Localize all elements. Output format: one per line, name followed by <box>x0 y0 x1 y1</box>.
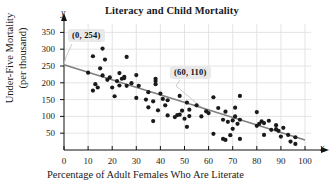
data-point <box>103 58 107 62</box>
y-axis-title-line1: Under-Five Mortality <box>3 0 16 118</box>
data-point <box>262 133 266 137</box>
data-point <box>91 54 95 58</box>
data-point <box>146 105 150 109</box>
x-tick-label: 30 <box>126 156 146 166</box>
data-point <box>182 117 186 121</box>
data-point <box>146 90 150 94</box>
x-tick-label: 90 <box>271 156 291 166</box>
data-point <box>125 55 129 59</box>
leader-line-intercept <box>64 44 72 65</box>
data-point <box>281 126 285 130</box>
data-point <box>238 94 242 98</box>
data-point <box>100 73 104 77</box>
data-point <box>156 108 160 112</box>
x-tick-label: 80 <box>247 156 267 166</box>
data-point <box>293 142 297 146</box>
data-point <box>158 91 162 95</box>
data-point <box>93 82 97 86</box>
data-point <box>238 137 242 141</box>
y-tick-label: 350 <box>33 27 55 37</box>
y-tick-label: 50 <box>33 128 55 138</box>
data-point <box>91 88 95 92</box>
data-point <box>235 122 239 126</box>
y-tick-label: 200 <box>33 78 55 88</box>
data-point <box>129 81 133 85</box>
data-point <box>137 84 141 88</box>
x-tick-label: 60 <box>199 156 219 166</box>
annotation-callout-point: (60, 110) <box>170 66 211 79</box>
data-point <box>125 84 129 88</box>
data-point <box>194 103 198 107</box>
data-point <box>238 118 242 122</box>
data-point <box>288 140 292 144</box>
data-point <box>185 101 189 105</box>
data-point <box>151 119 155 123</box>
data-point <box>161 97 165 101</box>
data-point <box>216 106 220 110</box>
data-point <box>255 110 259 114</box>
y-axis-title-line2: (per thousand) <box>16 0 29 118</box>
data-point <box>117 71 121 75</box>
data-point <box>207 111 211 115</box>
x-tick-label: 10 <box>78 156 98 166</box>
data-point <box>166 113 170 117</box>
y-axis-title: Under-Five Mortality (per thousand) <box>3 0 33 118</box>
data-point-group <box>86 46 297 146</box>
data-point <box>144 98 148 102</box>
x-axis-variable-label: x <box>320 143 324 153</box>
data-point <box>134 73 138 77</box>
data-point <box>276 129 280 133</box>
data-point <box>163 103 167 107</box>
data-point <box>223 138 227 142</box>
x-tick-label: 50 <box>175 156 195 166</box>
data-point <box>211 132 215 136</box>
annotation-callout-intercept: (0, 254) <box>68 29 105 42</box>
data-point <box>187 108 191 112</box>
data-point <box>110 85 114 89</box>
y-axis-variable-label: y <box>61 8 65 18</box>
data-point <box>187 114 191 118</box>
data-point <box>180 109 184 113</box>
data-point <box>100 46 104 50</box>
data-point <box>153 82 157 86</box>
x-tick-label: 100 <box>295 156 315 166</box>
y-tick-label: 300 <box>33 44 55 54</box>
data-point <box>231 127 235 131</box>
data-point <box>86 71 90 75</box>
data-point <box>223 110 227 114</box>
data-point <box>231 118 235 122</box>
data-point <box>269 128 273 132</box>
data-point <box>274 123 278 127</box>
data-point <box>134 96 138 100</box>
data-point <box>153 77 157 81</box>
x-axis-title: Percentage of Adult Females Who Are Lite… <box>47 170 244 181</box>
data-point <box>211 95 215 99</box>
x-tick-label: 70 <box>223 156 243 166</box>
data-point <box>178 94 182 98</box>
data-point <box>96 85 100 89</box>
data-point <box>233 106 237 110</box>
data-point <box>122 75 126 79</box>
data-point <box>267 119 271 123</box>
data-point <box>166 98 170 102</box>
data-point <box>221 118 225 122</box>
data-point <box>117 83 121 87</box>
data-point <box>108 75 112 79</box>
data-point <box>228 133 232 137</box>
data-point <box>226 120 230 124</box>
data-point <box>199 114 203 118</box>
chart-figure: Literacy and Child Mortality Percentage … <box>0 0 333 191</box>
gridlines <box>64 24 311 150</box>
data-point <box>113 94 117 98</box>
x-tick-label: 40 <box>150 156 170 166</box>
data-point <box>233 114 237 118</box>
y-tick-label: 250 <box>33 61 55 71</box>
data-point <box>185 125 189 129</box>
data-point <box>262 121 266 125</box>
chart-title: Literacy and Child Mortality <box>105 6 239 17</box>
data-point <box>151 99 155 103</box>
data-point <box>115 79 119 83</box>
x-tick-label: 0 <box>54 156 74 166</box>
data-point <box>286 133 290 137</box>
data-point <box>98 66 102 70</box>
